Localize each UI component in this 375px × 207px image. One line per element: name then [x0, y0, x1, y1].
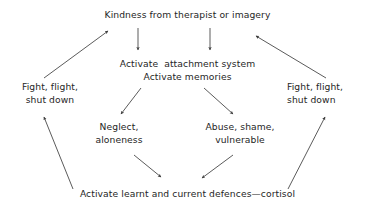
- node-activate-attachment-system: Activate attachment system Activate memo…: [95, 58, 280, 83]
- arrow-neglect-to-defences: [134, 155, 161, 177]
- node-fight-flight-shut-down-left: Fight, flight, shut down: [9, 81, 91, 106]
- node-kindness-from-therapist: Kindness from therapist or imagery: [0, 9, 375, 22]
- arrow-abuse-to-defences: [202, 155, 233, 178]
- arrow-defences-to-fight-flight-right: [288, 117, 325, 189]
- arrow-defences-to-fight-flight-left: [44, 117, 73, 189]
- node-abuse-shame-vulnerable: Abuse, shame, vulnerable: [192, 121, 288, 146]
- arrow-attachment-to-abuse: [204, 88, 233, 114]
- arrow-attachment-to-neglect: [121, 88, 141, 114]
- flow-diagram: Kindness from therapist or imagery Activ…: [0, 0, 375, 207]
- node-activate-learnt-current-defences: Activate learnt and current defences—cor…: [0, 188, 375, 201]
- node-neglect-aloneness: Neglect, aloneness: [76, 121, 162, 146]
- node-fight-flight-shut-down-right: Fight, flight, shut down: [287, 81, 369, 106]
